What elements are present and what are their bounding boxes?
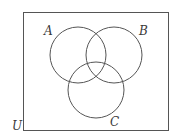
universe-label: U bbox=[12, 119, 23, 133]
set-b-label: B bbox=[138, 24, 148, 38]
set-a-circle bbox=[50, 27, 106, 83]
set-c-circle bbox=[68, 62, 124, 118]
set-b-circle bbox=[86, 27, 142, 83]
set-a-label: A bbox=[43, 24, 53, 38]
venn-diagram: A B C U bbox=[0, 0, 176, 140]
set-c-label: C bbox=[110, 115, 119, 129]
